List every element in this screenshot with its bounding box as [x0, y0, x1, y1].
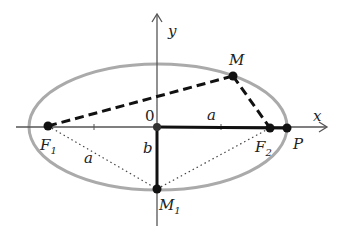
label-P: P	[292, 135, 304, 153]
point-F2	[266, 124, 275, 133]
label-M1-main: M	[158, 196, 175, 214]
point-F1	[44, 122, 53, 131]
label-a-bottom: a	[84, 149, 93, 167]
origin-label: 0	[145, 107, 155, 125]
label-F2-main: F	[254, 138, 266, 156]
x-axis-label: x	[313, 107, 322, 125]
label-F1: F1	[39, 136, 57, 156]
label-F1-main: F	[39, 136, 51, 154]
label-F1-sub: 1	[50, 145, 56, 156]
label-M: M	[228, 51, 245, 69]
y-axis-label: y	[167, 22, 177, 40]
label-M1: M1	[158, 196, 181, 216]
dashed-F1-M	[48, 76, 233, 126]
label-b: b	[143, 139, 153, 157]
dotted-M1-F2	[157, 128, 270, 189]
label-F2: F2	[254, 138, 272, 158]
ellipse-diagram: y x 0 M F1 F2 P M1 a a b	[0, 0, 344, 242]
label-a-top: a	[207, 106, 216, 124]
label-M1-sub: 1	[174, 205, 180, 216]
point-M1	[153, 185, 162, 194]
label-F2-sub: 2	[264, 147, 271, 158]
point-P	[283, 124, 292, 133]
point-M	[229, 72, 238, 81]
dotted-F1-M1	[48, 126, 157, 189]
